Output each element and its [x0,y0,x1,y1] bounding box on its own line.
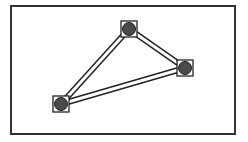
node-circle-icon [55,98,68,111]
node-circle-icon [179,62,192,75]
node-top [121,21,137,37]
node-bottom-left [53,96,69,112]
node-circle-icon [123,23,136,36]
node-right [177,60,193,76]
graph-diagram [0,0,248,142]
